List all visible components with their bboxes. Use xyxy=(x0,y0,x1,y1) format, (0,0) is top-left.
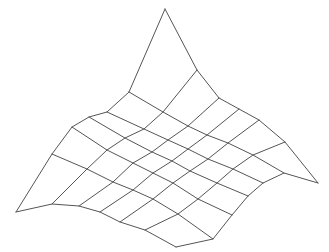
mesh-row-line-6 xyxy=(176,173,318,247)
surface-mesh xyxy=(16,9,318,247)
mesh-row-line-3 xyxy=(100,109,239,212)
mesh-col-line-2 xyxy=(72,127,232,215)
mesh-col-line-0 xyxy=(16,204,176,247)
wireframe-surface-plot xyxy=(0,0,329,252)
mesh-row-line-5 xyxy=(145,142,285,230)
mesh-col-line-4 xyxy=(107,112,263,183)
mesh-col-line-3 xyxy=(89,117,248,196)
mesh-col-line-6 xyxy=(165,9,318,183)
